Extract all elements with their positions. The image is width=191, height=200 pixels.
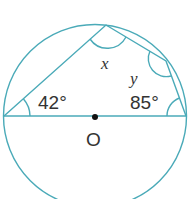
angle-arc-top [90, 37, 126, 48]
circle [4, 25, 187, 200]
angle-label-x: x [100, 54, 109, 73]
circle-diagram: 42° 85° x y O [0, 0, 191, 199]
angle-label-42: 42° [38, 92, 67, 113]
angle-label-85: 85° [130, 92, 159, 113]
center-label-o: O [86, 129, 101, 150]
angle-arc-right [167, 98, 180, 116]
center-point [92, 114, 98, 120]
angle-label-y: y [128, 69, 138, 88]
angle-arc-left [24, 99, 31, 116]
